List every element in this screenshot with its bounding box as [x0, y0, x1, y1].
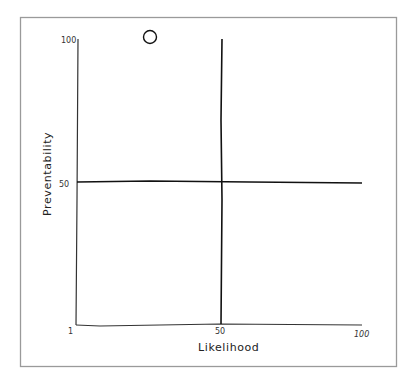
- x-tick-100: 100: [354, 330, 369, 339]
- x-tick-1: 1: [68, 327, 73, 336]
- quadrant-horizontal-line: [77, 181, 362, 183]
- y-tick-100: 100: [61, 36, 76, 45]
- x-axis-line: [76, 324, 362, 326]
- quadrant-chart: 100 50 1 50 100 Likelihood Preventabilit…: [0, 0, 416, 383]
- y-axis-label: Preventability: [41, 132, 54, 216]
- data-point-open-circle: [144, 31, 157, 44]
- y-tick-50: 50: [59, 180, 69, 189]
- x-tick-50: 50: [215, 327, 225, 336]
- x-axis-label: Likelihood: [198, 341, 259, 354]
